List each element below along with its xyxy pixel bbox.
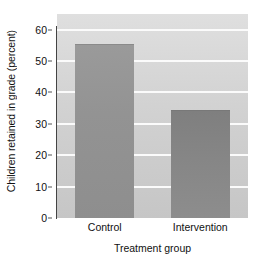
y-tick-label: 20 <box>35 150 47 161</box>
x-tick-label: Intervention <box>173 222 228 233</box>
y-tick-mark <box>48 92 52 93</box>
plot-area <box>57 14 248 218</box>
y-tick-mark <box>48 218 52 219</box>
y-tick-label: 10 <box>35 181 47 192</box>
y-tick-label: 0 <box>41 213 47 224</box>
x-tick-label: Control <box>88 222 122 233</box>
bar-chart: Children retained in grade (percent) 010… <box>0 0 253 262</box>
gridline <box>57 29 248 31</box>
y-axis-title-text: Children retained in grade (percent) <box>5 30 17 192</box>
bar-control <box>75 44 134 218</box>
y-tick-mark <box>48 29 52 30</box>
x-axis-title: Treatment group <box>57 242 248 254</box>
y-tick-label: 40 <box>35 87 47 98</box>
y-tick-label: 60 <box>35 24 47 35</box>
x-axis-ticks: ControlIntervention <box>57 222 248 238</box>
bar-intervention <box>171 110 230 218</box>
y-tick-mark <box>48 186 52 187</box>
y-axis-ticks: 0102030405060 <box>22 0 52 262</box>
y-tick-label: 30 <box>35 119 47 130</box>
y-tick-mark <box>48 123 52 124</box>
y-tick-mark <box>48 155 52 156</box>
y-tick-label: 50 <box>35 56 47 67</box>
y-tick-mark <box>48 61 52 62</box>
y-axis-title: Children retained in grade (percent) <box>0 0 22 222</box>
